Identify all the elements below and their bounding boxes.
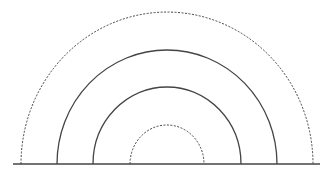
inner-dashed-arc xyxy=(130,125,204,164)
outer-dashed-arc xyxy=(21,12,313,164)
outer-solid-arc xyxy=(57,50,277,164)
concentric-semicircles-diagram xyxy=(0,0,329,175)
